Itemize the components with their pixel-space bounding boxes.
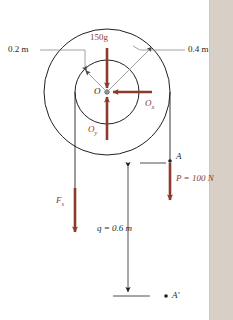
outer-radius-leader bbox=[133, 46, 185, 50]
inner-radius-leader bbox=[40, 50, 85, 68]
figure-canvas: 0.2 m 0.4 m 150g O Ox Oy Fs q = 0.6 m A … bbox=[0, 0, 233, 320]
outer-radius-dimension bbox=[107, 47, 152, 92]
point-a-prime-dot bbox=[164, 294, 168, 298]
inner-radius-dimension bbox=[86, 71, 108, 93]
pulley-diagram bbox=[0, 0, 233, 320]
point-a-dot bbox=[168, 159, 172, 163]
